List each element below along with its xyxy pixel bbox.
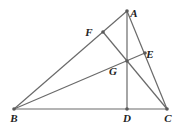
label-E: E [145, 48, 153, 60]
label-D: D [122, 112, 131, 124]
point-F [101, 30, 105, 34]
point-A [125, 9, 129, 13]
segment-AB [14, 11, 127, 109]
label-A: A [129, 7, 137, 19]
point-G [125, 59, 129, 63]
geometry-diagram: ABCDEFG [0, 0, 188, 127]
labels: ABCDEFG [9, 7, 172, 124]
label-G: G [109, 65, 117, 77]
point-B [12, 107, 16, 111]
label-F: F [84, 26, 93, 38]
point-C [165, 107, 169, 111]
point-D [125, 107, 129, 111]
label-C: C [164, 112, 172, 124]
points [12, 9, 169, 111]
label-B: B [9, 112, 17, 124]
segment-CA [127, 11, 167, 109]
